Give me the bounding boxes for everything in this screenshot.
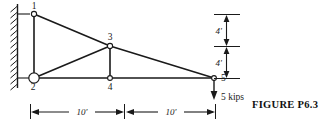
- vdim-arrow-upper-top: [224, 15, 230, 22]
- figure-canvas: 1 2 3 4 5 5 kips 10': [0, 0, 334, 131]
- dim-arrow-right-start: [126, 109, 134, 115]
- vertical-dimension-label-upper: 4': [216, 26, 224, 36]
- fixed-wall-support: [11, 4, 31, 90]
- vertical-dimension-upper: 4': [216, 15, 230, 46]
- joint-1-marker: [31, 11, 36, 16]
- vertical-dimension-label-lower: 4': [216, 58, 224, 68]
- dimension-label-left: 10': [77, 107, 89, 117]
- dim-arrow-left-start: [31, 109, 39, 115]
- truss-members: [34, 14, 214, 78]
- member-1-3: [34, 14, 110, 46]
- truss-diagram: 1 2 3 4 5 5 kips 10': [0, 0, 334, 131]
- figure-caption: FIGURE P6.3: [252, 99, 318, 110]
- applied-load-arrow: [211, 80, 218, 100]
- dim-arrow-right-end: [207, 109, 215, 115]
- dimension-span-right: 10': [126, 107, 215, 117]
- vdim-arrow-lower-top: [224, 47, 230, 54]
- horizontal-dimension-chain: 10' 10': [31, 104, 216, 119]
- joint-4-marker: [108, 76, 113, 81]
- joint-label-2: 2: [31, 82, 36, 92]
- vdim-arrow-upper-bottom: [224, 39, 230, 46]
- joint-3-marker: [107, 43, 112, 48]
- truss-joints: [29, 11, 217, 83]
- wall-hatching: [11, 6, 18, 90]
- joint-label-4: 4: [108, 82, 113, 92]
- dim-arrow-left-end: [116, 109, 124, 115]
- member-3-5: [110, 46, 214, 78]
- joint-label-1: 1: [32, 1, 37, 11]
- load-arrow-head: [211, 91, 218, 100]
- load-label: 5 kips: [221, 92, 244, 102]
- dimension-label-right: 10': [166, 107, 178, 117]
- member-2-3: [34, 46, 110, 78]
- joint-label-3: 3: [108, 32, 113, 42]
- vertical-dimension-chain: 4' 4': [214, 15, 240, 79]
- dimension-span-left: 10': [31, 107, 124, 117]
